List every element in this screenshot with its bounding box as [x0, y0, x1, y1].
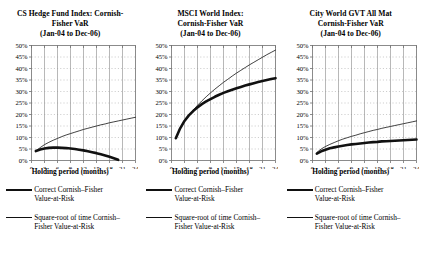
legend-label-correct-2-line1: Correct Cornish–Fisher [174, 185, 274, 195]
legend-label-correct-1-line2: Value-at-Risk [34, 194, 134, 204]
legend-item-sqrt-1: Square-root of time Cornish– Fisher Valu… [6, 213, 134, 232]
plot-svg-1: 0%5%10%15%20%25%30%35%40%45%50%036912151… [2, 42, 138, 169]
chart-title-1: CS Hedge Fund Index: Cornish- Fisher VaR… [8, 0, 132, 40]
svg-text:45%: 45% [296, 53, 309, 60]
legend-label-sqrt-1: Square-root of time Cornish– Fisher Valu… [34, 213, 134, 232]
svg-text:30%: 30% [16, 88, 29, 95]
legend-label-sqrt-3-line1: Square-root of time Cornish– [315, 213, 415, 223]
svg-text:5%: 5% [299, 145, 308, 152]
chart-title-3-line3: (Jan-04 to Dec-06) [289, 29, 413, 39]
chart-title-2: MSCI World Index: Cornish-Fisher VaR (Ja… [148, 0, 272, 40]
svg-text:40%: 40% [156, 65, 169, 72]
svg-text:15: 15 [374, 164, 381, 169]
legend-label-sqrt-2: Square-root of time Cornish– Fisher Valu… [174, 213, 274, 232]
plot-area-1: 0%5%10%15%20%25%30%35%40%45%50%036912151… [2, 42, 138, 169]
legend-label-correct-3: Correct Cornish–Fisher Value-at-Risk [315, 185, 415, 204]
svg-text:0%: 0% [299, 157, 308, 164]
svg-text:5%: 5% [19, 145, 28, 152]
svg-text:6: 6 [196, 164, 200, 169]
chart-title-3-line1: City World GVT All Mat [289, 9, 413, 19]
svg-text:12: 12 [80, 164, 87, 169]
svg-text:25%: 25% [296, 99, 309, 106]
svg-text:6: 6 [56, 164, 60, 169]
legend-2: Correct Cornish–Fisher Value-at-Risk Squ… [146, 185, 274, 241]
svg-text:3: 3 [43, 164, 47, 169]
legend-label-correct-3-line2: Value-at-Risk [315, 194, 415, 204]
legend-label-sqrt-2-line1: Square-root of time Cornish– [174, 213, 274, 223]
chart-title-1-line1: CS Hedge Fund Index: Cornish- [8, 9, 132, 19]
svg-text:3: 3 [324, 164, 328, 169]
svg-text:18: 18 [387, 164, 394, 169]
svg-text:15%: 15% [296, 122, 309, 129]
plot-svg-3: 0%5%10%15%20%25%30%35%40%45%50%036912151… [283, 42, 419, 169]
svg-text:0: 0 [170, 164, 174, 169]
svg-text:30%: 30% [156, 88, 169, 95]
legend-label-correct-1-line1: Correct Cornish–Fisher [34, 185, 134, 195]
svg-text:10%: 10% [296, 134, 309, 141]
svg-text:15%: 15% [156, 122, 169, 129]
legend-label-correct-2: Correct Cornish–Fisher Value-at-Risk [174, 185, 274, 204]
chart-title-2-line1: MSCI World Index: [148, 9, 272, 19]
legend-item-correct-1: Correct Cornish–Fisher Value-at-Risk [6, 185, 134, 204]
svg-text:20%: 20% [156, 111, 169, 118]
svg-text:5%: 5% [159, 145, 168, 152]
legend-3: Correct Cornish–Fisher Value-at-Risk Squ… [287, 185, 415, 241]
svg-text:45%: 45% [156, 53, 169, 60]
svg-text:40%: 40% [296, 65, 309, 72]
figure-root: CS Hedge Fund Index: Cornish- Fisher VaR… [0, 0, 421, 275]
legend-item-correct-2: Correct Cornish–Fisher Value-at-Risk [146, 185, 274, 204]
svg-text:10%: 10% [16, 134, 29, 141]
svg-text:18: 18 [247, 164, 254, 169]
thin-line-key-icon [6, 217, 32, 218]
legend-label-correct-3-line1: Correct Cornish–Fisher [315, 185, 415, 195]
chart-title-1-line2: Fisher VaR [8, 19, 132, 29]
svg-text:15: 15 [234, 164, 241, 169]
legend-item-sqrt-3: Square-root of time Cornish– Fisher Valu… [287, 213, 415, 232]
legend-label-correct-2-line2: Value-at-Risk [174, 194, 274, 204]
svg-text:30%: 30% [296, 88, 309, 95]
svg-text:10%: 10% [156, 134, 169, 141]
svg-text:15%: 15% [16, 122, 29, 129]
plot-area-2: 0%5%10%15%20%25%30%35%40%45%50%036912151… [142, 42, 278, 169]
svg-text:9: 9 [69, 164, 73, 169]
svg-text:20%: 20% [296, 111, 309, 118]
thin-line-key-icon [146, 217, 172, 218]
svg-text:24: 24 [273, 164, 279, 169]
svg-text:24: 24 [132, 164, 138, 169]
panel-container: CS Hedge Fund Index: Cornish- Fisher VaR… [0, 0, 421, 241]
thin-line-key-icon [287, 217, 313, 218]
legend-item-correct-3: Correct Cornish–Fisher Value-at-Risk [287, 185, 415, 204]
svg-text:35%: 35% [156, 76, 169, 83]
svg-text:12: 12 [221, 164, 228, 169]
svg-text:21: 21 [260, 164, 267, 169]
svg-text:24: 24 [413, 164, 419, 169]
svg-text:0%: 0% [19, 157, 28, 164]
legend-label-sqrt-3-line2: Fisher Value-at-Risk [315, 222, 415, 232]
svg-text:50%: 50% [156, 42, 169, 49]
thick-line-key-icon [287, 189, 313, 192]
svg-text:0%: 0% [159, 157, 168, 164]
thick-line-key-icon [6, 189, 32, 192]
chart-title-1-line3: (Jan-04 to Dec-06) [8, 29, 132, 39]
chart-title-3-line2: Cornish-Fisher VaR [289, 19, 413, 29]
svg-text:3: 3 [183, 164, 187, 169]
svg-text:12: 12 [361, 164, 368, 169]
legend-label-sqrt-3: Square-root of time Cornish– Fisher Valu… [315, 213, 415, 232]
svg-text:21: 21 [119, 164, 126, 169]
svg-text:20%: 20% [16, 111, 29, 118]
plot-svg-2: 0%5%10%15%20%25%30%35%40%45%50%036912151… [142, 42, 278, 169]
svg-text:35%: 35% [16, 76, 29, 83]
svg-text:18: 18 [106, 164, 113, 169]
svg-text:21: 21 [400, 164, 407, 169]
svg-text:50%: 50% [16, 42, 29, 49]
chart-title-2-line2: Cornish-Fisher VaR [148, 19, 272, 29]
svg-text:0: 0 [30, 164, 34, 169]
svg-text:45%: 45% [16, 53, 29, 60]
chart-title-3: City World GVT All Mat Cornish-Fisher Va… [289, 0, 413, 40]
chart-panel-3: City World GVT All Mat Cornish-Fisher Va… [281, 0, 421, 241]
chart-panel-1: CS Hedge Fund Index: Cornish- Fisher VaR… [0, 0, 140, 241]
svg-text:40%: 40% [16, 65, 29, 72]
svg-text:6: 6 [337, 164, 341, 169]
svg-text:15: 15 [93, 164, 100, 169]
legend-1: Correct Cornish–Fisher Value-at-Risk Squ… [6, 185, 134, 241]
